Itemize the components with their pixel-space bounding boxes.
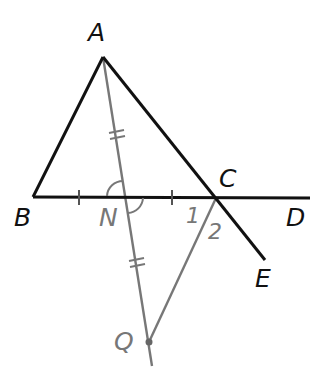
label-e: E: [255, 264, 271, 293]
label-q: Q: [114, 327, 134, 356]
double-tick-nq: [129, 258, 145, 267]
segment-cq: [149, 198, 216, 342]
geometry-diagram: A B N C D E Q 1 2: [0, 0, 331, 382]
label-c: C: [219, 164, 236, 193]
label-d: D: [286, 203, 305, 232]
label-n: N: [99, 203, 118, 232]
label-b: B: [14, 203, 31, 232]
angle-arc-cnq: [128, 198, 143, 213]
double-tick-an: [109, 130, 125, 139]
segment-ba: [33, 57, 103, 197]
angle-arc-anb: [107, 181, 123, 196]
angle-label-2: 2: [208, 219, 222, 244]
diagram-canvas: [0, 0, 331, 382]
label-a: A: [88, 18, 105, 47]
angle-label-1: 1: [186, 203, 200, 228]
point-q-dot: [146, 339, 153, 346]
segment-ae: [103, 57, 265, 260]
